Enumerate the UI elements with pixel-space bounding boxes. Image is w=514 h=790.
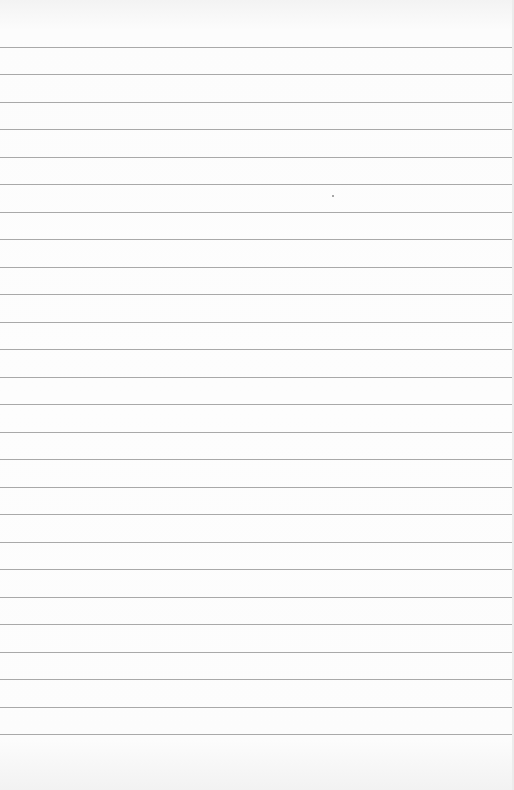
ruled-line	[0, 184, 512, 185]
ruled-line	[0, 157, 512, 158]
ruled-line	[0, 267, 512, 268]
ruled-line	[0, 239, 512, 240]
ruled-line	[0, 487, 512, 488]
ruled-line	[0, 707, 512, 708]
ruled-line	[0, 377, 512, 378]
ruled-line	[0, 679, 512, 680]
ruled-line	[0, 404, 512, 405]
ruled-line	[0, 212, 512, 213]
ruled-line	[0, 624, 512, 625]
ruled-line	[0, 74, 512, 75]
ruled-line	[0, 47, 512, 48]
ruled-line	[0, 542, 512, 543]
paper-speck	[332, 195, 334, 197]
ruled-line	[0, 129, 512, 130]
ruled-line	[0, 432, 512, 433]
ruled-line	[0, 569, 512, 570]
ruled-line	[0, 322, 512, 323]
ruled-line	[0, 597, 512, 598]
ruled-line	[0, 734, 512, 735]
ruled-line	[0, 652, 512, 653]
ruled-line	[0, 349, 512, 350]
ruled-line	[0, 459, 512, 460]
ruled-line	[0, 102, 512, 103]
ruled-line	[0, 514, 512, 515]
lined-paper-sheet	[0, 0, 514, 790]
ruled-line	[0, 294, 512, 295]
